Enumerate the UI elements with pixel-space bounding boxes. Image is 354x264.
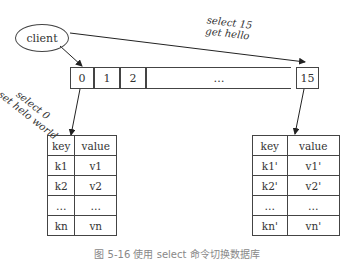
key-cell: k2' [253, 176, 288, 196]
db-cell-ellipsis: … [146, 67, 291, 89]
value-cell: v2 [75, 176, 117, 196]
key-cell: … [48, 196, 75, 216]
table-row: k2' v2' [253, 176, 340, 196]
table-row: k2 v2 [48, 176, 117, 196]
table-row: … … [253, 196, 340, 216]
table-header: key value [48, 136, 117, 156]
db-cell-2: 2 [120, 67, 146, 89]
key-cell: … [253, 196, 288, 216]
arrow-client-to-db0 [60, 46, 82, 66]
key-cell: k1' [253, 156, 288, 176]
right-keyvalue-table: key value k1' v1' k2' v2' … … kn' vn' [252, 135, 340, 236]
value-cell: v2' [287, 176, 339, 196]
key-cell: kn' [253, 216, 288, 236]
left-keyvalue-table: key value k1 v1 k2 v2 … … kn vn [47, 135, 117, 236]
value-cell: v1 [75, 156, 117, 176]
key-cell: k1 [48, 156, 75, 176]
arrow-db0-to-left-table [71, 89, 80, 135]
header-key: key [48, 136, 75, 156]
header-value: value [287, 136, 339, 156]
value-cell: v1' [287, 156, 339, 176]
value-cell: … [75, 196, 117, 216]
table-row: k1' v1' [253, 156, 340, 176]
value-cell: vn [75, 216, 117, 236]
table-row: … … [48, 196, 117, 216]
client-node: client [15, 24, 69, 52]
key-cell: k2 [48, 176, 75, 196]
table-header: key value [253, 136, 340, 156]
header-key: key [253, 136, 288, 156]
arrow-db15-to-right-table [295, 89, 304, 134]
table-row: k1 v1 [48, 156, 117, 176]
table-row: kn vn [48, 216, 117, 236]
key-cell: kn [48, 216, 75, 236]
arrow-client-to-db15 [70, 33, 305, 62]
db-cell-15: 15 [296, 67, 319, 89]
value-cell: vn' [287, 216, 339, 236]
client-label: client [26, 32, 57, 45]
header-value: value [75, 136, 117, 156]
db-cell-0: 0 [70, 67, 94, 89]
figure-caption: 图 5-16 使用 select 命令切换数据库 [0, 246, 354, 261]
value-cell: … [287, 196, 339, 216]
db-cell-1: 1 [94, 67, 120, 89]
table-row: kn' vn' [253, 216, 340, 236]
